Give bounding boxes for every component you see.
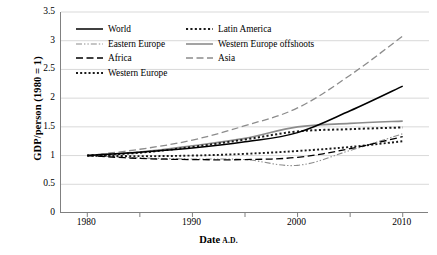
x-axis-title: DateA.D. bbox=[0, 234, 437, 245]
legend-row: Western Europe bbox=[76, 66, 326, 81]
legend-row: WorldLatin America bbox=[76, 22, 326, 37]
y-tick-label: 2.5 bbox=[3, 64, 55, 74]
legend-swatch-icon bbox=[186, 53, 213, 63]
legend-label: World bbox=[108, 24, 131, 34]
y-tick-label: 3 bbox=[3, 36, 55, 46]
legend-item[interactable]: Africa bbox=[76, 51, 186, 66]
legend-swatch-icon bbox=[186, 39, 213, 49]
legend-swatch-icon bbox=[76, 24, 103, 34]
x-tick-label: 2000 bbox=[272, 217, 322, 227]
legend-row: Eastern EuropeWestern Europe offshoots bbox=[76, 37, 326, 52]
legend-label: Western Europe offshoots bbox=[218, 39, 314, 49]
legend-item[interactable]: Western Europe bbox=[76, 66, 186, 81]
x-tick-label: 1990 bbox=[166, 217, 216, 227]
legend-swatch-icon bbox=[76, 39, 103, 49]
x-tick-label: 2010 bbox=[377, 217, 427, 227]
legend-swatch-icon bbox=[76, 68, 103, 78]
legend-item[interactable]: World bbox=[76, 22, 186, 37]
x-tick-label: 1980 bbox=[61, 217, 111, 227]
legend-row: AfricaAsia bbox=[76, 51, 326, 66]
x-axis-title-main: Date bbox=[199, 234, 220, 245]
legend-label: Latin America bbox=[218, 24, 271, 34]
y-tick-label: 1.5 bbox=[3, 122, 55, 132]
gdp-per-person-line-chart: GDP/person (1980 = 1) 3.532.521.510.50 1… bbox=[0, 0, 437, 255]
y-axis-tick-labels: 3.532.521.510.50 bbox=[0, 12, 55, 213]
legend-swatch-icon bbox=[186, 24, 213, 34]
y-tick-label: 3.5 bbox=[3, 7, 55, 17]
y-tick-label: 2 bbox=[3, 93, 55, 103]
legend-label: Western Europe bbox=[108, 68, 167, 78]
series-line bbox=[87, 86, 402, 155]
y-tick-label: 1 bbox=[3, 151, 55, 161]
chart-legend: WorldLatin AmericaEastern EuropeWestern … bbox=[76, 22, 326, 80]
legend-label: Africa bbox=[108, 53, 132, 63]
y-tick-label: 0 bbox=[3, 208, 55, 218]
legend-label: Asia bbox=[218, 53, 235, 63]
legend-item[interactable]: Latin America bbox=[186, 22, 326, 37]
legend-item[interactable]: Asia bbox=[186, 51, 326, 66]
x-minor-ticks bbox=[87, 213, 402, 217]
legend-item[interactable]: Eastern Europe bbox=[76, 37, 186, 52]
x-axis-title-suffix: A.D. bbox=[222, 236, 238, 245]
legend-label: Eastern Europe bbox=[108, 39, 165, 49]
legend-item[interactable]: Western Europe offshoots bbox=[186, 37, 326, 52]
y-tick-label: 0.5 bbox=[3, 179, 55, 189]
legend-swatch-icon bbox=[76, 53, 103, 63]
